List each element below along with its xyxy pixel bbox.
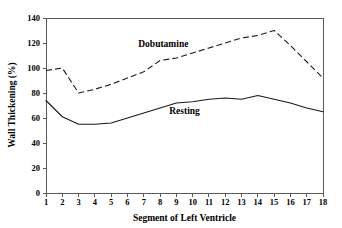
x-tick-label: 11 xyxy=(205,197,213,207)
x-tick-label: 5 xyxy=(109,197,113,207)
chart-figure: 020406080100120140 123456789101112131415… xyxy=(0,0,342,228)
x-tick-label: 15 xyxy=(270,197,279,207)
x-tick-label: 12 xyxy=(221,197,230,207)
series-label-dobutamine: Dobutamine xyxy=(138,39,188,49)
x-tick-label: 9 xyxy=(174,197,178,207)
x-tick-label: 14 xyxy=(254,197,263,207)
y-tick-label: 100 xyxy=(27,63,40,73)
wall-thickening-line-chart: 020406080100120140 123456789101112131415… xyxy=(0,0,342,228)
x-tick-label: 3 xyxy=(76,197,80,207)
y-tick-label: 40 xyxy=(32,138,41,148)
y-tick-label: 140 xyxy=(27,13,40,23)
y-tick-label: 80 xyxy=(32,88,41,98)
x-tick-label: 17 xyxy=(302,197,311,207)
x-tick-label: 6 xyxy=(125,197,129,207)
series-label-resting: Resting xyxy=(169,106,200,116)
x-tick-label: 8 xyxy=(158,197,162,207)
x-tick-label: 10 xyxy=(188,197,197,207)
y-tick-label: 20 xyxy=(32,163,41,173)
y-tick-label: 60 xyxy=(32,113,41,123)
x-tick-label: 2 xyxy=(60,197,64,207)
x-tick-label: 7 xyxy=(142,197,147,207)
y-tick-label: 0 xyxy=(36,188,40,198)
x-tick-label: 4 xyxy=(93,197,98,207)
x-axis-title: Segment of Left Ventricle xyxy=(133,213,236,223)
x-tick-label: 1 xyxy=(44,197,48,207)
y-axis-title: Wall Thickening (%) xyxy=(7,62,18,147)
x-tick-label: 13 xyxy=(237,197,246,207)
x-tick-label: 18 xyxy=(319,197,328,207)
y-tick-label: 120 xyxy=(27,38,40,48)
x-tick-label: 16 xyxy=(286,197,295,207)
